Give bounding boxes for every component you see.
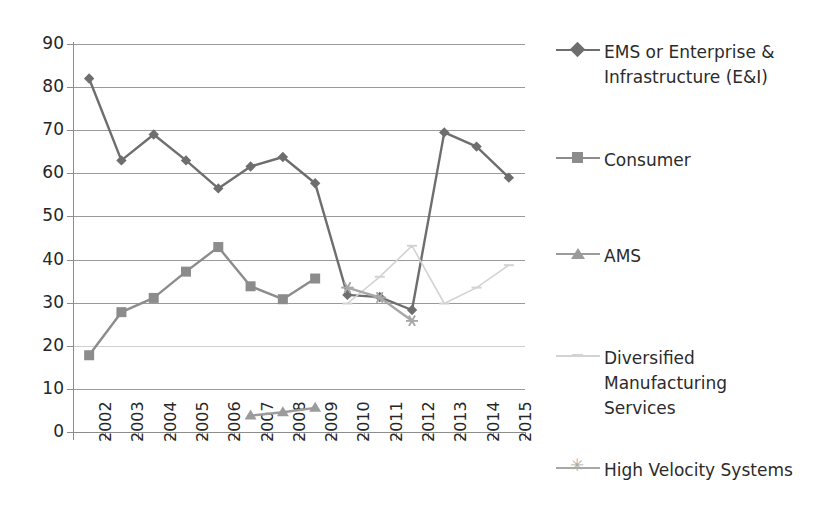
data-point-marker <box>310 274 320 284</box>
legend-item-high-velocity-systems[interactable]: ✳High Velocity Systems <box>556 458 793 483</box>
legend-swatch-diamond-icon <box>556 41 600 59</box>
series-high-velocity-systems <box>341 282 418 326</box>
data-point-marker <box>342 290 352 300</box>
data-point-marker <box>84 350 94 360</box>
legend-marker-diamond-icon <box>570 42 586 58</box>
legend-marker-dash-icon <box>572 354 583 357</box>
legend-swatch-square-icon <box>556 149 600 167</box>
data-point-marker <box>149 293 159 303</box>
data-point-marker <box>278 294 288 304</box>
legend-label: Diversified Manufacturing Services <box>604 346 727 421</box>
data-point-marker <box>116 307 126 317</box>
data-point-marker <box>246 281 256 291</box>
legend-item-consumer[interactable]: Consumer <box>556 148 691 173</box>
data-point-marker <box>309 402 321 412</box>
legend-swatch-star-icon: ✳ <box>556 459 600 477</box>
series-ams <box>245 402 322 420</box>
legend-marker-triangle-icon <box>571 248 585 259</box>
legend-label: Consumer <box>604 148 691 173</box>
legend-marker-square-icon <box>572 152 583 163</box>
chart-root: 9080706050403020100 20022003200420052006… <box>0 0 840 530</box>
legend-swatch-dash-icon <box>556 347 600 365</box>
legend-marker-star-icon: ✳ <box>570 459 584 472</box>
series-line <box>89 79 509 311</box>
legend-item-ams[interactable]: AMS <box>556 244 641 269</box>
data-point-marker <box>84 73 94 83</box>
legend-label: EMS or Enterprise & Infrastructure (E&I) <box>604 40 775 90</box>
legend-item-diversified[interactable]: Diversified Manufacturing Services <box>556 346 727 421</box>
data-point-marker <box>181 267 191 277</box>
data-point-marker <box>213 242 223 252</box>
data-point-marker <box>439 127 449 137</box>
legend-item-ems-or-enterprise[interactable]: EMS or Enterprise & Infrastructure (E&I) <box>556 40 775 90</box>
legend-label: High Velocity Systems <box>604 458 793 483</box>
series-consumer <box>84 242 320 360</box>
series-ems-or-enterprise-infrastructure-e-i <box>84 73 514 315</box>
legend-label: AMS <box>604 244 641 269</box>
data-point-marker <box>407 305 417 315</box>
legend-swatch-triangle-icon <box>556 245 600 263</box>
